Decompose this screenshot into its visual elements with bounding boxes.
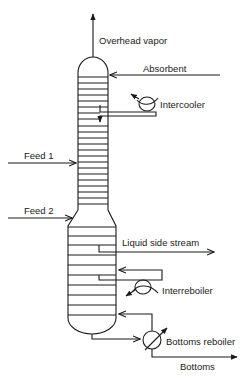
intercooler-loop <box>100 94 158 122</box>
label-liquid-side-stream: Liquid side stream <box>122 238 199 248</box>
lower-trays <box>68 227 116 315</box>
column-drawing <box>0 0 248 377</box>
label-intercooler: Intercooler <box>160 100 205 110</box>
label-overhead-vapor: Overhead vapor <box>99 36 167 46</box>
label-feed-2: Feed 2 <box>24 206 54 216</box>
upper-trays <box>78 77 108 204</box>
label-feed-1: Feed 1 <box>24 151 54 161</box>
label-bottoms: Bottoms <box>180 362 215 372</box>
column-diagram: Overhead vapor Absorbent Intercooler Fee… <box>0 0 248 377</box>
label-bottoms-reboiler: Bottoms reboiler <box>166 337 235 347</box>
label-interreboiler: Interreboiler <box>162 286 213 296</box>
column-shell <box>68 57 116 334</box>
label-absorbent: Absorbent <box>143 64 186 74</box>
interreboiler-loop <box>99 270 162 296</box>
